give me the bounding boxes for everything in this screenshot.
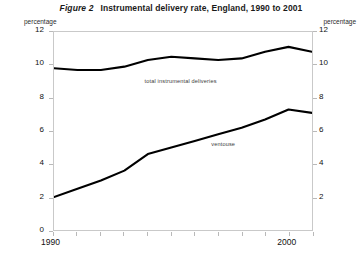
series-line bbox=[54, 47, 312, 70]
x-tick-mark bbox=[123, 232, 124, 236]
y-tick-label-left: 4 bbox=[20, 159, 44, 167]
x-tick-mark bbox=[76, 232, 77, 236]
left-axis-unit-label: percentage bbox=[24, 18, 57, 25]
chart-lines bbox=[54, 32, 312, 230]
y-tick-mark-right bbox=[313, 131, 317, 132]
y-tick-label-left: 6 bbox=[20, 126, 44, 134]
page-title: Instrumental delivery rate, England, 199… bbox=[100, 3, 302, 13]
y-tick-mark-right bbox=[313, 98, 317, 99]
x-tick-mark bbox=[242, 232, 243, 236]
x-tick-label: 1990 bbox=[41, 238, 60, 247]
y-tick-label-right: 10 bbox=[319, 59, 343, 67]
y-tick-mark-right bbox=[313, 31, 317, 32]
figure-root: Figure 2Instrumental delivery rate, Engl… bbox=[0, 0, 362, 262]
series-label: total instrumental deliveries bbox=[145, 79, 217, 85]
x-tick-mark bbox=[100, 232, 101, 236]
figure-title: Figure 2Instrumental delivery rate, Engl… bbox=[0, 3, 362, 13]
series-label: ventouse bbox=[211, 142, 235, 148]
x-tick-mark bbox=[218, 232, 219, 236]
x-tick-mark bbox=[53, 232, 54, 236]
y-tick-label-right: 2 bbox=[319, 193, 343, 201]
y-tick-label-left: 10 bbox=[20, 59, 44, 67]
y-tick-label-right: 6 bbox=[319, 126, 343, 134]
x-tick-mark bbox=[265, 232, 266, 236]
x-tick-label: 2000 bbox=[277, 238, 296, 247]
x-tick-mark bbox=[289, 232, 290, 236]
y-tick-label-right: 4 bbox=[319, 159, 343, 167]
x-tick-mark bbox=[147, 232, 148, 236]
plot-area bbox=[53, 31, 313, 231]
series-line bbox=[54, 110, 312, 197]
y-tick-mark-right bbox=[313, 198, 317, 199]
x-tick-mark bbox=[171, 232, 172, 236]
y-tick-label-left: 12 bbox=[20, 26, 44, 34]
figure-number: Figure 2 bbox=[60, 3, 94, 13]
y-tick-mark-right bbox=[313, 164, 317, 165]
y-tick-label-right: 12 bbox=[319, 26, 343, 34]
x-tick-mark bbox=[313, 232, 314, 236]
y-tick-mark-right bbox=[313, 64, 317, 65]
right-axis-unit-label: percentage bbox=[323, 18, 356, 25]
y-tick-label-left: 2 bbox=[20, 193, 44, 201]
y-tick-label-left: 0 bbox=[20, 226, 44, 234]
x-tick-mark bbox=[194, 232, 195, 236]
y-tick-label-right: 8 bbox=[319, 93, 343, 101]
y-tick-label-left: 8 bbox=[20, 93, 44, 101]
